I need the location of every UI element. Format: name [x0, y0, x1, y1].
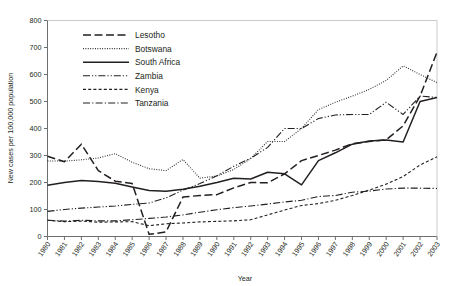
y-axis-ticks: 0100200300400500600700800 [30, 16, 48, 241]
x-tick-label: 1991 [222, 240, 239, 258]
x-tick-label: 1984 [104, 240, 121, 258]
x-tick-label: 1996 [307, 240, 324, 258]
x-tick-label: 1982 [70, 240, 87, 258]
x-tick-label: 1995 [290, 240, 307, 258]
x-tick-label: 1988 [171, 240, 188, 258]
y-tick-label: 200 [30, 178, 42, 187]
line-chart: 0100200300400500600700800 19801981198219… [0, 0, 449, 286]
x-tick-label: 2002 [408, 240, 425, 258]
series-line-tanzania [48, 188, 438, 221]
x-tick-label: 2003 [425, 240, 442, 258]
x-tick-label: 1987 [154, 240, 171, 258]
legend-label-lesotho: Lesotho [135, 30, 165, 40]
axes [48, 21, 438, 237]
x-tick-label: 1989 [188, 240, 205, 258]
series-line-south-africa [48, 97, 438, 191]
y-tick-label: 500 [30, 97, 42, 106]
x-axis-label: Year [238, 274, 253, 283]
y-tick-label: 600 [30, 70, 42, 79]
y-tick-label: 300 [30, 151, 42, 160]
data-series [48, 52, 438, 234]
series-line-kenya [48, 157, 438, 226]
legend-label-botswana: Botswana [135, 44, 172, 54]
y-tick-label: 400 [30, 124, 42, 133]
y-tick-label: 700 [30, 43, 42, 52]
y-axis-label: New cases per 100,000 population [6, 73, 15, 184]
x-axis-ticks: 1980198119821983198419851986198719881989… [36, 237, 442, 259]
x-tick-label: 2000 [374, 240, 391, 258]
x-tick-label: 1985 [120, 240, 137, 258]
x-tick-label: 2001 [391, 240, 408, 258]
y-tick-label: 0 [38, 232, 42, 241]
x-tick-label: 1999 [358, 240, 375, 258]
x-tick-label: 1993 [256, 240, 273, 258]
x-tick-label: 1990 [205, 240, 222, 258]
y-tick-label: 100 [30, 205, 42, 214]
legend-label-zambia: Zambia [135, 71, 163, 81]
x-tick-label: 1997 [324, 240, 341, 258]
chart-figure: 0100200300400500600700800 19801981198219… [0, 0, 449, 286]
x-tick-label: 1980 [36, 240, 53, 258]
x-tick-label: 1983 [87, 240, 104, 258]
legend-label-kenya: Kenya [135, 85, 159, 95]
legend-label-tanzania: Tanzania [135, 98, 169, 108]
x-tick-label: 1992 [239, 240, 256, 258]
x-tick-label: 1981 [53, 240, 70, 258]
series-line-botswana [48, 66, 438, 178]
chart-legend: LesothoBotswanaSouth AfricaZambiaKenyaTa… [83, 30, 181, 108]
x-tick-label: 1994 [273, 240, 290, 258]
series-line-zambia [48, 96, 438, 211]
x-tick-label: 1998 [341, 240, 358, 258]
x-tick-label: 1986 [137, 240, 154, 258]
y-tick-label: 800 [30, 16, 42, 25]
legend-label-south-africa: South Africa [135, 57, 181, 67]
